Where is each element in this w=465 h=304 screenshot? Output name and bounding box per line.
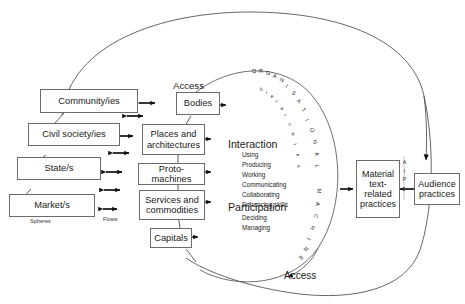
flow-label-places-architectures: Places and architectures xyxy=(143,129,204,150)
sphere-label-state: State/s xyxy=(43,163,76,173)
access-bottom-label: Access xyxy=(284,270,316,281)
activities-interaction: Interaction Using Producing Working Comm… xyxy=(228,138,288,210)
participation-item: Deciding xyxy=(242,213,286,222)
flow-label-bodies: Bodies xyxy=(182,98,214,108)
interaction-heading: Interaction xyxy=(228,138,288,150)
spheres-caption: Spheres xyxy=(30,218,51,224)
flow-box-capitals[interactable]: Capitals xyxy=(150,228,192,248)
flow-label-capitals: Capitals xyxy=(152,233,190,243)
flows-caption: Flows xyxy=(103,216,118,222)
sphere-box-market[interactable]: Market/s xyxy=(9,194,95,217)
aip-letters: A I P xyxy=(400,158,409,184)
diagram-canvas: ORGANISATIONALMACHINE hierarchies Commun… xyxy=(0,0,465,304)
interaction-item: Working xyxy=(242,170,288,179)
flow-box-services-commodities[interactable]: Services and commodities xyxy=(139,190,205,220)
ring-glyph: R xyxy=(259,68,263,74)
flow-label-services-commodities: Services and commodities xyxy=(140,195,204,216)
aip-letter-i: I xyxy=(400,167,409,176)
aip-letter-p: P xyxy=(400,175,409,184)
practice-box-material-text-related[interactable]: Material text-related practices xyxy=(356,160,400,218)
flow-box-bodies[interactable]: Bodies xyxy=(176,92,220,115)
interaction-item: Collaborating xyxy=(242,190,288,199)
sphere-label-civil-society: Civil society/ies xyxy=(40,129,108,139)
ring-glyph: s xyxy=(296,164,302,168)
practice-label-audience: Audience practices xyxy=(415,179,459,199)
sphere-box-community[interactable]: Community/ies xyxy=(40,89,138,113)
aip-letter-a: A xyxy=(400,158,409,167)
participation-item: Managing xyxy=(242,223,286,232)
sphere-box-civil-society[interactable]: Civil society/ies xyxy=(28,123,120,146)
interaction-item: Communicating xyxy=(242,180,288,189)
ring-glyph: A xyxy=(314,201,321,206)
flow-box-proto-machines[interactable]: Proto-machines xyxy=(138,163,205,185)
practice-box-audience[interactable]: Audience practices xyxy=(414,173,460,205)
activities-participation: Participation Deciding Managing xyxy=(228,201,286,233)
sphere-label-community: Community/ies xyxy=(56,96,121,106)
practice-label-material-text-related: Material text-related practices xyxy=(357,169,399,209)
sphere-label-market: Market/s xyxy=(32,200,72,210)
participation-heading: Participation xyxy=(228,201,286,213)
access-top-label: Access xyxy=(173,80,204,91)
ring-glyph: M xyxy=(316,189,322,194)
ring-glyph: O xyxy=(252,68,257,74)
interaction-item: Producing xyxy=(242,160,288,169)
sphere-box-state[interactable]: State/s xyxy=(17,157,101,180)
flow-label-proto-machines: Proto-machines xyxy=(139,164,204,185)
interaction-item: Using xyxy=(242,150,288,159)
capitals-to-ring-line xyxy=(186,249,196,262)
flow-box-places-architectures[interactable]: Places and architectures xyxy=(142,124,205,155)
